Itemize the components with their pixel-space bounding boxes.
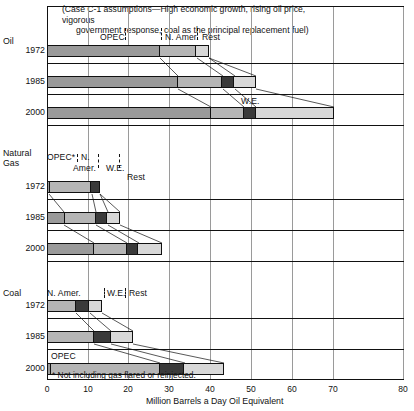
gas-label-rest: Rest — [127, 172, 145, 182]
seg-coal-1985-we — [94, 332, 111, 342]
seg-oil-2000-rest — [256, 108, 333, 118]
year-label-oil-2000: 2000 — [5, 107, 45, 117]
oil-label-opec: OPEC — [100, 32, 125, 42]
bar-gas-2000[interactable] — [47, 243, 162, 255]
group-name-gas-line2: Gas — [3, 158, 31, 168]
year-label-gas-1972: 1972 — [5, 181, 45, 191]
seg-oil-2000-opec — [48, 108, 211, 118]
oil-opec-leader — [125, 28, 126, 40]
oil-row-sep-3 — [47, 125, 404, 126]
xtick-0: 0 — [32, 384, 62, 394]
seg-oil-1985-rest — [234, 77, 255, 87]
seg-gas-2000-we — [127, 244, 139, 254]
oil-label-namer: N. Amer. — [165, 32, 199, 42]
xtick-40: 40 — [195, 384, 225, 394]
chart-footnote: * Not including gas flared or reinjected… — [52, 370, 196, 380]
x-axis-title: Million Barrels a Day Oil Equivalent — [146, 396, 283, 406]
plot-area: OPEC N. Amer. Rest W.E. — [47, 6, 404, 380]
seg-gas-1985-opec — [48, 213, 65, 223]
seg-coal-1972-we — [76, 301, 90, 311]
seg-gas-1985-we — [96, 213, 108, 223]
gas-label-namer-l2: Amer. — [73, 163, 96, 173]
seg-oil-1972-namer — [160, 46, 197, 56]
coal-row-sep-2 — [47, 349, 404, 350]
bar-oil-2000[interactable] — [47, 107, 334, 119]
group-name-coal: Coal — [3, 288, 21, 298]
oil-label-rest: Rest — [202, 32, 220, 42]
seg-gas-1972-namer — [50, 182, 91, 192]
group-name-gas: Natural Gas — [3, 148, 31, 168]
oil-row-sep-1 — [47, 63, 404, 64]
plot-top-border — [47, 6, 404, 7]
gas-namer-leader — [98, 154, 99, 168]
seg-oil-1972-rest — [196, 46, 208, 56]
seg-coal-1985-rest — [111, 332, 132, 342]
oil-label-we: W.E. — [241, 96, 260, 106]
xtick-30: 30 — [154, 384, 184, 394]
xtick-60: 60 — [277, 384, 307, 394]
seg-gas-1985-rest — [107, 213, 119, 223]
seg-gas-1985-namer — [65, 213, 96, 223]
xtick-20: 20 — [113, 384, 143, 394]
group-name-gas-line1: Natural — [3, 148, 31, 158]
bar-oil-1985[interactable] — [47, 76, 256, 88]
seg-oil-1985-namer — [178, 77, 223, 87]
coal-row-sep-1 — [47, 318, 404, 319]
gas-row-sep-2 — [47, 230, 404, 231]
gas-row-sep-1 — [47, 199, 404, 200]
year-label-coal-1985: 1985 — [5, 331, 45, 341]
coal-label-we: W.E. — [107, 288, 126, 298]
seg-oil-1972-opec — [48, 46, 160, 56]
year-label-gas-1985: 1985 — [5, 212, 45, 222]
oil-row-sep-2 — [47, 94, 404, 95]
year-label-coal-1972: 1972 — [5, 300, 45, 310]
coal-we-leader-a — [104, 288, 105, 298]
seg-gas-1972-we — [91, 182, 99, 192]
seg-gas-2000-opec — [48, 244, 94, 254]
coal-label-namer: N. Amer. — [47, 288, 81, 298]
year-label-coal-2000: 2000 — [5, 363, 45, 373]
seg-oil-1985-we — [222, 77, 234, 87]
xtick-50: 50 — [236, 384, 266, 394]
year-label-oil-1972: 1972 — [5, 45, 45, 55]
seg-oil-2000-we — [244, 108, 256, 118]
seg-coal-1972-namer — [48, 301, 76, 311]
group-name-coal-line1: Coal — [3, 288, 21, 298]
gas-label-opec: OPEC* — [47, 152, 75, 162]
gas-label-we: W.E. — [106, 163, 125, 173]
bar-oil-1972[interactable] — [47, 45, 209, 57]
xtick-80: 80 — [388, 384, 414, 394]
oil-namer-leader-a — [161, 28, 162, 40]
bar-coal-1972[interactable] — [47, 300, 102, 312]
year-label-gas-2000: 2000 — [5, 243, 45, 253]
gas-row-sep-3 — [47, 261, 404, 262]
bar-coal-1985[interactable] — [47, 331, 133, 343]
seg-gas-2000-rest — [138, 244, 161, 254]
gas-opec-leader — [77, 154, 78, 162]
coal-label-opec: OPEC — [51, 351, 76, 361]
bar-gas-1972[interactable] — [47, 181, 100, 193]
seg-gas-2000-namer — [94, 244, 126, 254]
coal-label-rest: Rest — [129, 288, 147, 298]
gas-label-namer-l1: N. — [81, 152, 90, 162]
seg-coal-1972-rest — [89, 301, 101, 311]
seg-oil-1985-opec — [48, 77, 178, 87]
year-label-oil-1985: 1985 — [5, 76, 45, 86]
xtick-10: 10 — [73, 384, 103, 394]
seg-oil-2000-namer — [211, 108, 244, 118]
seg-coal-1985-namer — [48, 332, 94, 342]
xtick-70: 70 — [318, 384, 348, 394]
energy-supply-stacked-bar-chart: (Case C-1 assumptions—High economic grow… — [0, 0, 414, 411]
bar-gas-1985[interactable] — [47, 212, 120, 224]
